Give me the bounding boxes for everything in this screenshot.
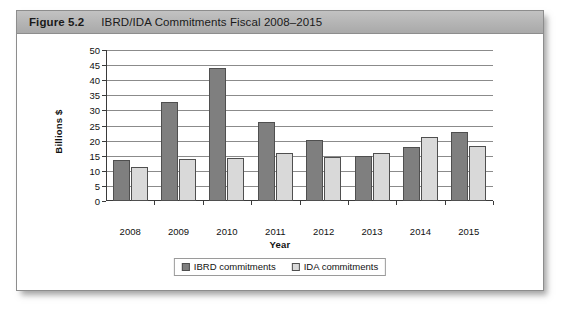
chart-legend: IBRD commitmentsIDA commitments <box>174 258 386 276</box>
bar-ibrd-2012 <box>306 140 323 201</box>
legend-label: IBRD commitments <box>194 261 276 272</box>
x-tick-mark <box>396 201 397 205</box>
y-tick-label: 15 <box>74 150 100 161</box>
figure-caption-bar: Figure 5.2 IBRD/IDA Commitments Fiscal 2… <box>17 11 543 34</box>
bar-ida-2013 <box>373 153 390 201</box>
bar-ida-2011 <box>276 153 293 201</box>
legend-swatch-ibrd <box>182 263 190 271</box>
bar-group <box>251 50 299 201</box>
bar-ibrd-2011 <box>258 122 275 201</box>
x-tick-label: 2015 <box>445 226 493 237</box>
y-tick-label: 5 <box>74 180 100 191</box>
bar-group <box>348 50 396 201</box>
legend-item: IBRD commitments <box>182 261 276 272</box>
chart-plot-area: Billions $ Year 05101520253035404550 200… <box>17 34 543 290</box>
y-tick-label: 10 <box>74 165 100 176</box>
y-tick-label: 45 <box>74 60 100 71</box>
x-tick-label: 2009 <box>154 226 202 237</box>
bar-group <box>396 50 444 201</box>
x-tick-label: 2012 <box>300 226 348 237</box>
x-tick-mark <box>493 201 494 205</box>
figure-caption-text: IBRD/IDA Commitments Fiscal 2008–2015 <box>101 16 322 28</box>
x-tick-label: 2011 <box>251 226 299 237</box>
x-tick-label: 2008 <box>106 226 154 237</box>
x-tick-mark <box>300 201 301 205</box>
x-tick-label: 2010 <box>203 226 251 237</box>
chart-canvas <box>106 50 493 201</box>
y-tick-label: 40 <box>74 75 100 86</box>
bar-ida-2014 <box>421 137 438 201</box>
bar-ibrd-2015 <box>451 132 468 201</box>
y-tick-label: 0 <box>74 196 100 207</box>
y-tick-label: 20 <box>74 135 100 146</box>
legend-item: IDA commitments <box>292 261 378 272</box>
figure-number-label: Figure 5.2 <box>29 16 84 28</box>
x-tick-mark <box>203 201 204 205</box>
bar-ibrd-2008 <box>113 160 130 201</box>
x-tick-mark <box>348 201 349 205</box>
y-tick-label: 35 <box>74 90 100 101</box>
x-tick-mark <box>251 201 252 205</box>
bar-group <box>203 50 251 201</box>
bar-ibrd-2010 <box>209 68 226 201</box>
bar-group <box>106 50 154 201</box>
x-tick-label: 2013 <box>348 226 396 237</box>
bar-ida-2012 <box>324 157 341 201</box>
bar-ida-2015 <box>469 146 486 201</box>
x-axis-title: Year <box>17 239 543 250</box>
bar-group <box>300 50 348 201</box>
y-axis-title: Billions $ <box>53 87 64 177</box>
legend-swatch-ida <box>292 263 300 271</box>
x-tick-mark <box>154 201 155 205</box>
y-tick-label: 25 <box>74 120 100 131</box>
bar-group <box>154 50 202 201</box>
bar-ida-2009 <box>179 159 196 201</box>
x-tick-label: 2014 <box>396 226 444 237</box>
bar-ida-2010 <box>227 158 244 201</box>
legend-label: IDA commitments <box>304 261 378 272</box>
y-tick-label: 30 <box>74 105 100 116</box>
bar-ida-2008 <box>131 167 148 201</box>
bar-ibrd-2009 <box>161 102 178 201</box>
y-tick-label: 50 <box>74 45 100 56</box>
y-tick-mark <box>102 201 106 202</box>
bar-group <box>445 50 493 201</box>
figure-container: Figure 5.2 IBRD/IDA Commitments Fiscal 2… <box>16 10 544 291</box>
bar-ibrd-2013 <box>355 156 372 201</box>
x-tick-mark <box>445 201 446 205</box>
bar-ibrd-2014 <box>403 147 420 201</box>
